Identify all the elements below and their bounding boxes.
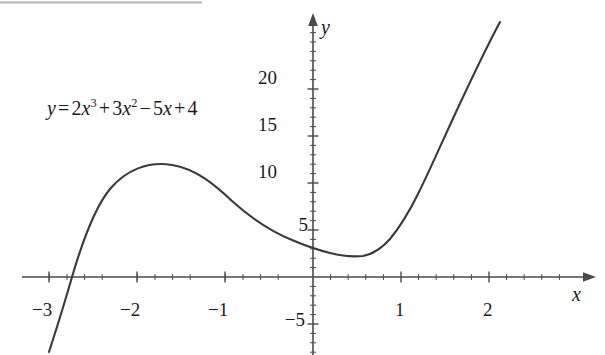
equation-annotation: y=2x3+3x2−5x+4 [47, 97, 198, 120]
equation-constant: 4 [187, 97, 197, 119]
y-tick-label-10: 10 [258, 161, 277, 183]
equation-exp-quadratic: 2 [131, 96, 137, 110]
y-axis-label: y [321, 16, 330, 39]
equation-op-plus-2: + [172, 97, 187, 119]
equation-lhs: y [47, 97, 56, 119]
equation-var-quadratic: x [122, 97, 131, 119]
equation-op-minus: − [138, 97, 153, 119]
x-tick-label-2: 2 [483, 299, 493, 321]
y-tick-label-15: 15 [258, 114, 277, 136]
y-tick-label-5: 5 [299, 214, 309, 236]
equation-equals: = [56, 97, 71, 119]
x-axis-arrowhead [583, 272, 596, 282]
x-tick-label-1: 1 [395, 299, 405, 321]
equation-coef-quadratic: 3 [112, 97, 122, 119]
cartesian-plot [0, 0, 605, 355]
figure-panel: y=2x3+3x2−5x+4 20 15 10 5 −5 −3 −2 −1 1 … [0, 0, 605, 355]
y-tick-label-minus-5: −5 [285, 309, 305, 331]
y-tick-label-20: 20 [258, 67, 277, 89]
x-tick-label-minus-3: −3 [32, 299, 52, 321]
x-tick-label-minus-1: −1 [208, 299, 228, 321]
x-tick-label-minus-2: −2 [120, 299, 140, 321]
equation-var-linear: x [163, 97, 172, 119]
equation-op-plus-1: + [97, 97, 112, 119]
equation-exp-cubic: 3 [90, 96, 96, 110]
equation-coef-cubic: 2 [71, 97, 81, 119]
x-axis-label: x [572, 283, 581, 306]
y-axis-arrowhead [308, 13, 318, 26]
axes-group [22, 20, 589, 355]
equation-coef-linear: 5 [153, 97, 163, 119]
